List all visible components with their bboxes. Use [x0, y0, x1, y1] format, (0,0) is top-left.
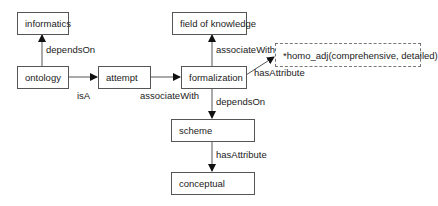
- node-label: informatics: [25, 18, 71, 29]
- node-label: conceptual: [179, 178, 225, 189]
- edge-label-dependson-2: dependsOn: [216, 96, 265, 107]
- node-attempt: attempt: [98, 66, 151, 89]
- node-homo-adj: *homo_adj(comprehensive, detailed): [275, 43, 421, 67]
- node-label: scheme: [179, 125, 212, 136]
- node-field-of-knowledge: field of knowledge: [172, 12, 247, 35]
- node-conceptual: conceptual: [171, 172, 255, 195]
- edge-label-hasattribute-1: hasAttribute: [254, 67, 305, 78]
- node-label: *homo_adj(comprehensive, detailed): [283, 50, 438, 61]
- edge-label-isa: isA: [77, 90, 90, 101]
- edge-label-associatewith-2: associateWith: [216, 44, 275, 55]
- edge-label-associatewith-1: associateWith: [140, 90, 199, 101]
- node-scheme: scheme: [171, 119, 255, 142]
- node-label: ontology: [25, 72, 61, 83]
- edge-label-hasattribute-2: hasAttribute: [216, 149, 267, 160]
- node-label: field of knowledge: [180, 18, 256, 29]
- node-label: attempt: [106, 72, 138, 83]
- node-formalization: formalization: [181, 66, 247, 89]
- node-label: formalization: [189, 72, 243, 83]
- edge-label-dependson-1: dependsOn: [46, 44, 95, 55]
- node-ontology: ontology: [17, 66, 69, 89]
- node-informatics: informatics: [17, 12, 69, 35]
